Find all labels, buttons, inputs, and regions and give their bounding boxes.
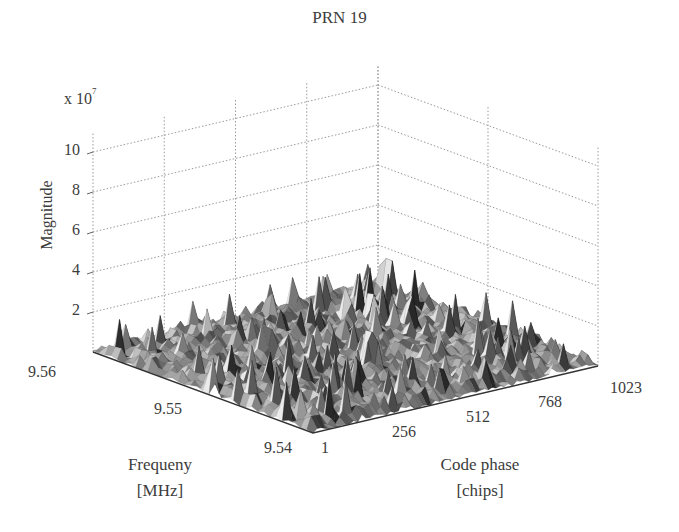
z-tick-10: 10: [64, 141, 80, 159]
y-axis-label-line2: [MHz]: [110, 481, 210, 501]
x-tick-512: 512: [466, 408, 490, 426]
x-axis-label-line2: [chips]: [420, 481, 540, 501]
y-tick-9.55: 9.55: [154, 400, 182, 418]
z-axis-label: Magnitude: [38, 175, 58, 255]
axis-ticks: [87, 152, 93, 314]
chart-title: PRN 19: [0, 8, 679, 28]
x-tick-1: 1: [321, 439, 329, 457]
x-axis-label: Code phase [chips]: [420, 455, 540, 501]
x-tick-768: 768: [538, 393, 562, 411]
z-tick-6: 6: [72, 221, 80, 239]
z-tick-2: 2: [72, 301, 80, 319]
y-tick-9.54: 9.54: [264, 439, 292, 457]
surface-plot: [0, 0, 679, 532]
z-scale-label: x 107: [64, 90, 97, 108]
y-tick-9.56: 9.56: [28, 363, 56, 381]
z-tick-4: 4: [72, 261, 80, 279]
z-tick-8: 8: [72, 181, 80, 199]
x-tick-256: 256: [392, 423, 416, 441]
y-axis-label-line1: Frequeny: [110, 455, 210, 475]
x-tick-1023: 1023: [610, 379, 642, 397]
x-axis-label-line1: Code phase: [420, 455, 540, 475]
y-axis-label: Frequeny [MHz]: [110, 455, 210, 501]
